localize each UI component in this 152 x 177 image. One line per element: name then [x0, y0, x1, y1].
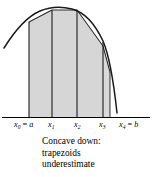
shaded-trapezoid-region [29, 10, 103, 117]
tick-label-x4: x4 = b [119, 121, 138, 129]
tick-x1-subscript: 1 [52, 124, 55, 130]
tick-x4-equals: = [125, 120, 134, 129]
shaded-trapezoid-edge-sliver [103, 46, 110, 117]
caption-line-1: Concave down: [42, 136, 148, 148]
tick-x0-equals: = [20, 120, 29, 129]
tick-x4-value: b [134, 120, 138, 129]
tick-label-x2: x2 [74, 121, 80, 129]
trapezoid-rule-figure: x0 = a x1 x2 x3 x4 = b Concave down: tra… [0, 0, 152, 177]
figure-caption: Concave down: trapezoids underestimate [42, 136, 148, 171]
caption-line-2: trapezoids [42, 148, 148, 160]
caption-line-3: underestimate [42, 159, 148, 171]
tick-x0-value: a [29, 120, 33, 129]
tick-x3-subscript: 3 [103, 124, 106, 130]
tick-label-x3: x3 [99, 121, 105, 129]
tick-label-x0: x0 = a [14, 121, 33, 129]
tick-x2-subscript: 2 [78, 124, 81, 130]
tick-label-x1: x1 [48, 121, 54, 129]
